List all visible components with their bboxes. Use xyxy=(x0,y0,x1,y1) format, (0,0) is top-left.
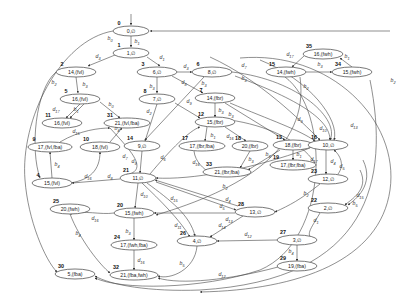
edge: d3 xyxy=(177,63,192,72)
edge: d3 xyxy=(88,53,115,66)
edge: d17 xyxy=(286,51,304,67)
state-label: 20,(fwh) xyxy=(61,206,80,212)
state-label: 13,∅ xyxy=(249,209,260,215)
state-label: 21,(fbr,fba) xyxy=(214,169,239,175)
state-number: 28 xyxy=(238,201,244,207)
edge-label: b3 xyxy=(228,111,234,119)
state-number: 26 xyxy=(180,230,186,236)
state-label: 15,(fvl) xyxy=(44,180,60,186)
edge-label: d2 xyxy=(146,108,152,116)
edge-path xyxy=(140,151,142,173)
edge-label: d16 xyxy=(137,257,145,265)
edge-path xyxy=(175,103,200,118)
state-node: 21,(fbr,fba)33 xyxy=(203,161,251,178)
edge-label: b2 xyxy=(303,190,309,198)
state-node: 20,(fbr)18 xyxy=(232,135,268,152)
edge-label: b3 xyxy=(317,61,323,69)
edge-path xyxy=(235,76,330,140)
state-number: 9 xyxy=(33,136,36,142)
state-label: 11,∅ xyxy=(133,175,144,181)
edge: d12 xyxy=(217,231,277,241)
edge-label: d16 xyxy=(192,159,200,167)
state-label: 9,∅ xyxy=(138,143,146,149)
edge-label: b1 xyxy=(210,132,215,140)
nodes-layer: 0,∅01,∅114,(fvl)26,∅316,(fvl)58,∅614,(fb… xyxy=(28,20,372,281)
edge-label: d12 xyxy=(218,271,226,279)
state-label: 15,(fbr) xyxy=(207,119,224,125)
edge-label: d9 xyxy=(297,116,303,124)
state-number: 1 xyxy=(118,42,121,48)
diagram-svg: b1b0d3d1b3b2d3b3d8b3d7b3d17b1b0b3b3d9d2d… xyxy=(0,0,408,304)
state-number: 33 xyxy=(206,161,212,167)
edge-label: d9 xyxy=(131,158,137,166)
state-label: 7,∅ xyxy=(153,96,161,102)
edge-label: d8 xyxy=(107,173,113,181)
edge-path xyxy=(348,160,367,205)
edge-label: d16 xyxy=(226,133,234,141)
state-node: 13,∅28 xyxy=(235,201,275,218)
edge-label: b1 xyxy=(73,106,78,114)
edge-label: d7 xyxy=(122,153,128,161)
edge-label: d7 xyxy=(241,62,247,70)
state-number: 29 xyxy=(280,255,286,261)
edge-label: b4 xyxy=(54,161,59,169)
state-number: 17 xyxy=(182,135,188,141)
edge: d8 xyxy=(172,76,203,93)
edge: d13 xyxy=(154,213,235,224)
state-node: 15,(fvl)4 xyxy=(32,172,72,189)
edge: d4 xyxy=(326,150,336,174)
state-node: 14,(fvl)2 xyxy=(56,61,96,78)
edge-label: b1 xyxy=(134,38,139,46)
state-label: 16,(fvl) xyxy=(54,120,70,126)
edge: d1 xyxy=(309,213,320,240)
edge-label: d15 xyxy=(72,128,80,136)
state-number: 35 xyxy=(306,43,312,49)
state-label: 10,∅ xyxy=(322,142,333,148)
state-label: 16,(fvl) xyxy=(72,96,88,102)
edge-label: b4 xyxy=(288,248,293,256)
state-number: 14 xyxy=(127,135,133,141)
edge-path xyxy=(217,240,277,241)
edge-label: d12 xyxy=(244,231,252,239)
state-node: 17,(fvl,fba)9 xyxy=(28,136,72,153)
edge: b4 xyxy=(70,214,110,273)
edge-label: b2 xyxy=(303,83,309,91)
edge-label: d10 xyxy=(140,191,148,199)
state-number: 16 xyxy=(311,134,317,140)
state-number: 34 xyxy=(335,61,341,67)
edge: b5 xyxy=(158,246,197,277)
state-label: 5,(fba) xyxy=(68,271,83,277)
state-number: 30 xyxy=(58,263,64,269)
edge: d8 xyxy=(72,173,120,183)
state-label: 18,(fvl) xyxy=(92,144,108,150)
edge-label: d15 xyxy=(170,195,178,203)
state-diagram: b1b0d3d1b3b2d3b3d8b3d7b3d17b1b0b3b3d9d2d… xyxy=(0,0,408,304)
edge: b4 xyxy=(50,152,60,178)
edge: d16 xyxy=(70,152,100,183)
state-label: 14,(fvl) xyxy=(68,69,84,75)
state-label: 21,(fvl,fba) xyxy=(115,120,140,126)
edge-label: d8 xyxy=(181,79,187,87)
state-number: 13 xyxy=(276,134,282,140)
state-label: 16,(fwh) xyxy=(314,51,333,57)
state-label: 8,∅ xyxy=(208,69,216,75)
state-label: 19,(fba) xyxy=(288,263,306,269)
state-label: 18,(fbr) xyxy=(285,142,302,148)
edge: d9 xyxy=(175,98,200,118)
state-node: 16,(fvl)11 xyxy=(42,112,82,129)
state-node: 17,(fbr,fba)17 xyxy=(179,135,225,152)
state-number: 2 xyxy=(61,61,64,67)
edge: d16 xyxy=(134,250,145,270)
edge-label: d9 xyxy=(186,98,192,106)
state-number: 10 xyxy=(83,136,89,142)
edge-path xyxy=(147,183,195,236)
state-node: 6,∅3 xyxy=(137,61,177,78)
state-node: 16,(fvl)5 xyxy=(60,88,100,105)
edge-path xyxy=(232,72,332,140)
edge-label: b5 xyxy=(179,260,185,268)
edge-label: b3 xyxy=(248,156,254,164)
edge-label: d10 xyxy=(319,125,327,133)
edge-path xyxy=(88,55,115,66)
edge-path xyxy=(70,214,110,273)
state-number: 22 xyxy=(311,197,317,203)
